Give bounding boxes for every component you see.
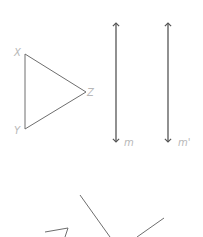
vertex-label-y: Y: [14, 125, 21, 136]
diagram-canvas: X Y Z m m': [0, 0, 203, 237]
line-segment-fragment-2: [137, 218, 164, 237]
line-segment-fragment-1: [80, 195, 110, 237]
triangle-xyz: [25, 54, 86, 129]
partial-triangle-fragment: [45, 228, 68, 237]
line-label-m: m: [124, 137, 134, 148]
vertex-label-x: X: [13, 47, 22, 58]
vertex-label-z: Z: [86, 87, 95, 98]
line-label-m-prime: m': [178, 137, 191, 148]
